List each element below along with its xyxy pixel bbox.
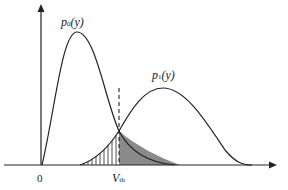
p0-label: p0(y) bbox=[61, 16, 84, 28]
y-axis-arrow-icon bbox=[38, 4, 45, 12]
p1-label: p1(y) bbox=[152, 69, 175, 81]
threshold-label: Vth bbox=[112, 172, 125, 184]
pdf-plot bbox=[0, 0, 288, 190]
origin-label: 0 bbox=[37, 173, 43, 184]
diagram: p0(y) p1(y) 0 Vth bbox=[0, 0, 288, 190]
shaded-area bbox=[119, 131, 180, 165]
hatched-area bbox=[84, 120, 116, 166]
p1-curve bbox=[80, 88, 252, 165]
x-axis-arrow-icon bbox=[269, 162, 277, 169]
